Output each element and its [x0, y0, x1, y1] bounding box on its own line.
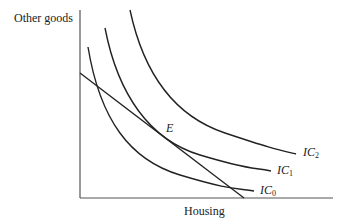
ic1-name: IC	[277, 163, 289, 177]
equilibrium-label: E	[166, 122, 173, 134]
indifference-curve-ic2	[130, 10, 296, 154]
ic1-label: IC1	[277, 164, 293, 178]
y-axis-label: Other goods	[14, 12, 73, 24]
ic2-name: IC	[303, 145, 315, 159]
ic0-label: IC0	[260, 184, 276, 198]
indifference-curve-ic0	[88, 47, 254, 191]
ic2-subscript: 2	[315, 151, 319, 160]
ic0-name: IC	[260, 183, 272, 197]
indifference-curve-ic1	[105, 28, 271, 171]
ic1-subscript: 1	[289, 169, 293, 178]
ic0-subscript: 0	[272, 189, 276, 198]
indifference-curve-diagram	[0, 0, 346, 218]
x-axis-label: Housing	[184, 205, 225, 217]
ic2-label: IC2	[303, 146, 319, 160]
